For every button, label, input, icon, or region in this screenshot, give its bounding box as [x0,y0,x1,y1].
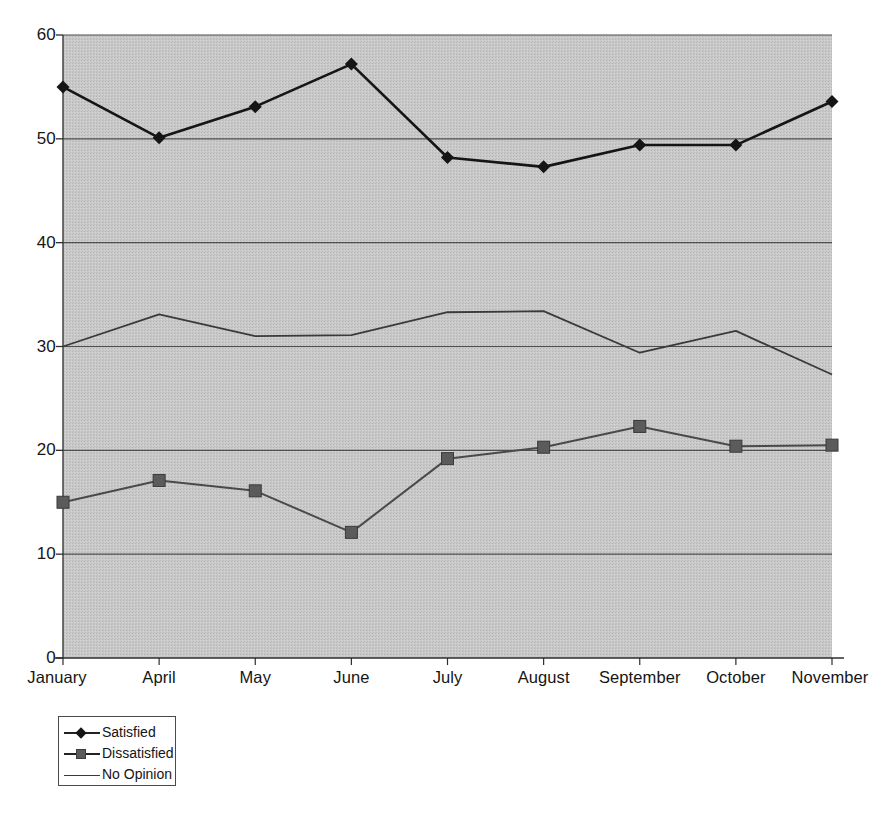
legend-item-satisfied: Satisfied [59,722,175,743]
legend-label: Satisfied [100,725,156,740]
legend-label: Dissatisfied [100,746,174,761]
legend-label: No Opinion [100,767,172,782]
x-axis-tick-label: January [27,668,86,686]
data-point-dissatisfied [730,440,742,452]
x-axis-tick-label: September [599,668,681,686]
legend-item-dissatisfied: Dissatisfied [59,743,175,764]
chart-legend: Satisfied Dissatisfied No Opinion [58,716,176,786]
legend-item-no-opinion: No Opinion [59,764,175,785]
data-point-dissatisfied [442,453,454,465]
x-axis-tick-label: June [333,668,369,686]
x-axis-tick-label: October [706,668,765,686]
x-axis-tick-label: May [240,668,271,686]
data-point-dissatisfied [634,420,646,432]
x-axis-tick-label: August [518,668,570,686]
data-point-dissatisfied [538,441,550,453]
square-marker-icon [64,747,100,761]
x-axis-tick-label: April [142,668,176,686]
data-point-dissatisfied [826,439,838,451]
x-axis-tick-label: July [433,668,463,686]
line-marker-icon [64,768,100,782]
data-point-dissatisfied [345,526,357,538]
diamond-marker-icon [64,726,100,740]
data-point-dissatisfied [249,485,261,497]
x-axis-tick-label: November [792,668,869,686]
data-point-dissatisfied [153,474,165,486]
line-chart: 0102030405060 JanuaryAprilMayJuneJulyAug… [0,0,895,814]
chart-plot-area [0,0,895,814]
data-point-dissatisfied [57,496,69,508]
